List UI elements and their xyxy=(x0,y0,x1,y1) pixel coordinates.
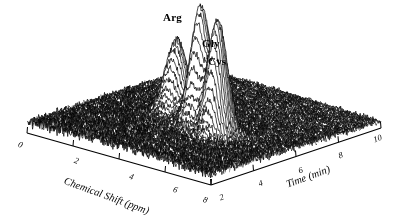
peak-label-cys: Cys xyxy=(208,56,226,67)
peak-label-gly: Gly xyxy=(202,38,220,49)
nmr-3d-surface-figure: ArgGlyCysChemical Shift (ppm)02468Time (… xyxy=(0,0,401,221)
peak-label-arg: Arg xyxy=(163,12,182,23)
surface-plot-canvas xyxy=(0,0,401,221)
